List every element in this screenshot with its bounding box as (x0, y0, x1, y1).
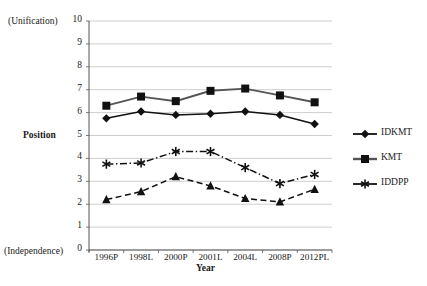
data-point-square (276, 91, 284, 99)
data-point-star (276, 179, 284, 188)
data-point-square (172, 97, 180, 105)
data-point-diamond (310, 120, 318, 128)
data-point-diamond (276, 111, 284, 119)
data-point-square (311, 98, 319, 106)
data-point-square (241, 85, 249, 93)
chart-container: (Unification) (Independence) Position Ye… (0, 0, 427, 286)
data-point-star (207, 147, 215, 156)
data-point-square (207, 87, 215, 95)
series-idkmt (102, 107, 319, 128)
data-point-diamond (241, 107, 249, 115)
plot-area (0, 0, 427, 286)
data-point-diamond (206, 110, 214, 118)
data-point-triangle (172, 172, 180, 180)
data-point-star (241, 163, 249, 172)
data-point-diamond (172, 111, 180, 119)
grid-lines (89, 21, 332, 250)
series-kmt (102, 85, 318, 110)
data-point-triangle (310, 185, 318, 193)
data-point-square (137, 93, 145, 101)
data-point-diamond (137, 107, 145, 115)
axis-lines (86, 21, 332, 253)
data-point-star (311, 170, 319, 179)
series-dpp (102, 172, 319, 205)
data-point-diamond (102, 114, 110, 122)
data-point-square (102, 102, 110, 110)
